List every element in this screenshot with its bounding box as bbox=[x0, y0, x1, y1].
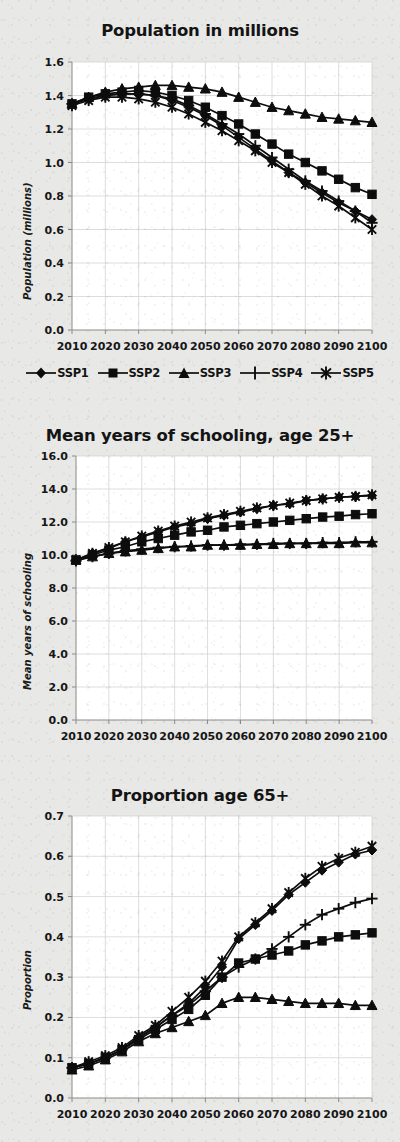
svg-text:2080: 2080 bbox=[291, 730, 322, 743]
svg-text:2.0: 2.0 bbox=[49, 681, 69, 694]
svg-text:14.0: 14.0 bbox=[41, 483, 68, 496]
svg-text:1.0: 1.0 bbox=[45, 157, 65, 170]
diamond-icon bbox=[26, 365, 56, 381]
svg-text:2100: 2100 bbox=[357, 730, 388, 743]
svg-text:2010: 2010 bbox=[57, 1108, 88, 1121]
chart-panel-population: Population in millions Population (milli… bbox=[0, 0, 400, 400]
svg-text:16.0: 16.0 bbox=[41, 450, 68, 463]
legend-item-ssp2[interactable]: SSP2 bbox=[98, 365, 160, 381]
svg-text:2070: 2070 bbox=[258, 730, 289, 743]
svg-text:0.1: 0.1 bbox=[45, 1052, 65, 1065]
svg-text:1.4: 1.4 bbox=[45, 90, 65, 103]
svg-text:2070: 2070 bbox=[257, 1108, 288, 1121]
svg-text:2040: 2040 bbox=[157, 340, 188, 353]
legend-label-ssp3: SSP3 bbox=[200, 366, 231, 380]
svg-text:0.5: 0.5 bbox=[45, 891, 65, 904]
plot-area-population: 0.00.20.40.60.81.01.21.41.62010202020302… bbox=[0, 0, 400, 400]
svg-text:2010: 2010 bbox=[61, 730, 92, 743]
plot-area-schooling: 0.02.04.06.08.010.012.014.016.0201020202… bbox=[0, 400, 400, 760]
svg-text:2040: 2040 bbox=[157, 1108, 188, 1121]
asterisk-icon bbox=[311, 365, 341, 381]
svg-text:0.2: 0.2 bbox=[45, 291, 65, 304]
svg-text:4.0: 4.0 bbox=[49, 648, 69, 661]
svg-text:10.0: 10.0 bbox=[41, 549, 68, 562]
legend-item-ssp1[interactable]: SSP1 bbox=[26, 365, 88, 381]
plot-area-proportion65: 0.00.10.20.30.40.50.60.72010202020302040… bbox=[0, 760, 400, 1142]
svg-text:0.6: 0.6 bbox=[45, 224, 65, 237]
svg-text:1.2: 1.2 bbox=[45, 123, 65, 136]
svg-text:1.6: 1.6 bbox=[45, 56, 65, 69]
svg-text:0.4: 0.4 bbox=[45, 257, 65, 270]
svg-text:2020: 2020 bbox=[94, 730, 125, 743]
svg-text:0.6: 0.6 bbox=[45, 850, 65, 863]
svg-text:2030: 2030 bbox=[123, 1108, 154, 1121]
svg-text:2060: 2060 bbox=[223, 1108, 254, 1121]
chart-panel-schooling: Mean years of schooling, age 25+ Mean ye… bbox=[0, 400, 400, 760]
legend-label-ssp2: SSP2 bbox=[129, 366, 160, 380]
svg-text:0.0: 0.0 bbox=[45, 1092, 65, 1105]
svg-text:2020: 2020 bbox=[90, 1108, 121, 1121]
svg-text:2010: 2010 bbox=[57, 340, 88, 353]
svg-text:2060: 2060 bbox=[223, 340, 254, 353]
legend-label-ssp5: SSP5 bbox=[342, 366, 373, 380]
svg-text:0.7: 0.7 bbox=[45, 810, 65, 823]
svg-text:2050: 2050 bbox=[190, 340, 221, 353]
svg-text:2100: 2100 bbox=[357, 340, 388, 353]
legend-item-ssp4[interactable]: SSP4 bbox=[240, 365, 302, 381]
svg-text:0.0: 0.0 bbox=[49, 714, 69, 727]
legend-item-ssp3[interactable]: SSP3 bbox=[169, 365, 231, 381]
svg-text:12.0: 12.0 bbox=[41, 516, 68, 529]
svg-text:0.3: 0.3 bbox=[45, 971, 65, 984]
triangle-icon bbox=[169, 365, 199, 381]
svg-text:0.2: 0.2 bbox=[45, 1011, 65, 1024]
svg-text:0.0: 0.0 bbox=[45, 324, 65, 337]
svg-text:2090: 2090 bbox=[324, 730, 355, 743]
svg-text:2100: 2100 bbox=[357, 1108, 388, 1121]
svg-text:2050: 2050 bbox=[190, 1108, 221, 1121]
legend-item-ssp5[interactable]: SSP5 bbox=[311, 365, 373, 381]
svg-text:2090: 2090 bbox=[323, 1108, 354, 1121]
square-icon bbox=[98, 365, 128, 381]
svg-text:2070: 2070 bbox=[257, 340, 288, 353]
chart-panel-proportion65: Proportion age 65+ Proportion 0.00.10.20… bbox=[0, 760, 400, 1142]
svg-text:8.0: 8.0 bbox=[49, 582, 69, 595]
svg-text:2060: 2060 bbox=[225, 730, 256, 743]
svg-text:6.0: 6.0 bbox=[49, 615, 69, 628]
svg-text:2090: 2090 bbox=[323, 340, 354, 353]
legend: SSP1 SSP2 SSP3 SSP4 bbox=[0, 365, 400, 381]
legend-label-ssp4: SSP4 bbox=[271, 366, 302, 380]
svg-text:2030: 2030 bbox=[123, 340, 154, 353]
svg-text:0.8: 0.8 bbox=[45, 190, 65, 203]
svg-text:2080: 2080 bbox=[290, 340, 321, 353]
legend-label-ssp1: SSP1 bbox=[57, 366, 88, 380]
svg-text:2080: 2080 bbox=[290, 1108, 321, 1121]
svg-text:0.4: 0.4 bbox=[45, 931, 65, 944]
svg-text:2050: 2050 bbox=[192, 730, 223, 743]
svg-text:2030: 2030 bbox=[126, 730, 157, 743]
svg-text:2040: 2040 bbox=[159, 730, 190, 743]
plus-icon bbox=[240, 365, 270, 381]
svg-text:2020: 2020 bbox=[90, 340, 121, 353]
